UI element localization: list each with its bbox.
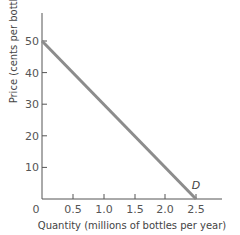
y-tick-30: 30 — [25, 98, 39, 111]
y-tick-labels: 10 20 30 40 50 — [25, 35, 39, 174]
demand-curve-label: D — [192, 179, 200, 192]
y-tick-20: 20 — [25, 130, 39, 143]
demand-chart: 10 20 30 40 50 0 0.5 1.0 1.5 2.0 2.5 D Q… — [0, 0, 240, 235]
x-tick-2-5: 2.5 — [187, 203, 205, 216]
demand-curve — [42, 41, 196, 199]
y-tick-40: 40 — [25, 67, 39, 80]
x-tick-1-0: 1.0 — [95, 203, 113, 216]
x-axis-label: Quantity (millions of bottles per year) — [38, 220, 227, 231]
x-ticks — [73, 194, 196, 199]
x-tick-labels: 0.5 1.0 1.5 2.0 2.5 — [64, 203, 205, 216]
x-tick-2-0: 2.0 — [156, 203, 174, 216]
y-tick-50: 50 — [25, 35, 39, 48]
y-tick-10: 10 — [25, 161, 39, 174]
x-tick-0-5: 0.5 — [64, 203, 82, 216]
origin-label: 0 — [33, 203, 40, 216]
x-tick-1-5: 1.5 — [126, 203, 144, 216]
y-axis-label: Price (cents per bottle) — [8, 0, 19, 103]
y-ticks — [42, 41, 47, 167]
